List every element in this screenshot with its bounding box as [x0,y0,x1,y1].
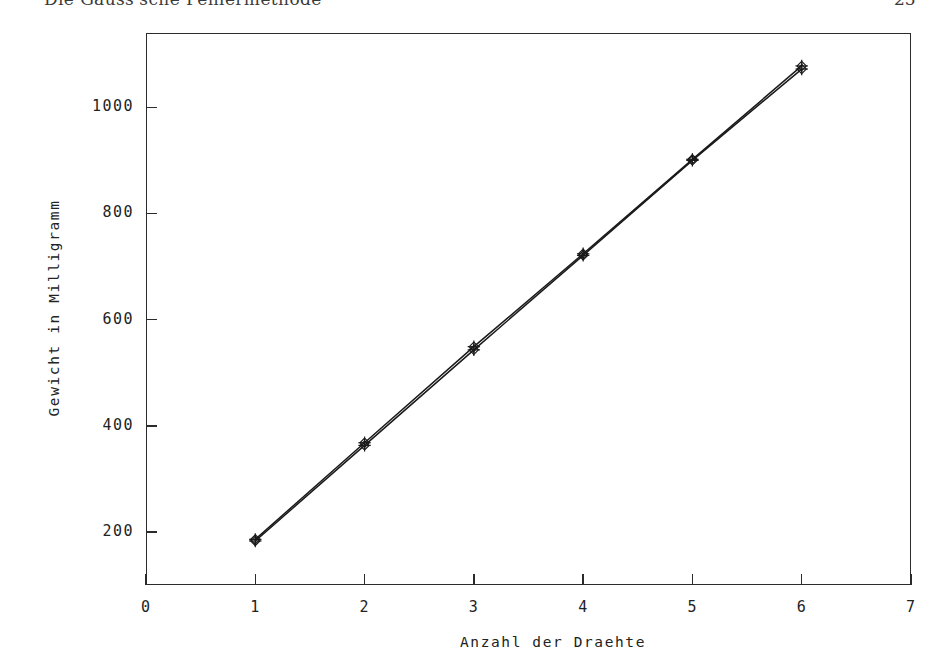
x-axis-tick [255,574,257,585]
x-axis-tick [910,574,912,585]
y-axis-tick-label: 600 [60,310,134,328]
y-axis-tick [146,319,157,321]
x-axis-tick-label: 2 [345,598,385,616]
x-axis-title: Anzahl der Draehte [0,634,938,650]
x-axis-tick-label: 0 [126,598,166,616]
x-axis-tick-label: 1 [235,598,275,616]
y-axis-tick-label: 400 [60,416,134,434]
x-axis-tick-label: 5 [672,598,712,616]
x-axis-tick-label: 4 [563,598,603,616]
x-axis-tick [801,574,803,585]
y-axis-tick [146,425,157,427]
y-axis-title: Gewicht in Milligramm [46,158,62,458]
x-axis-tick [473,574,475,585]
x-axis-tick [692,574,694,585]
x-axis-tick [582,574,584,585]
y-axis-tick [146,531,157,533]
y-axis-title-text: Gewicht in Milligramm [46,200,62,417]
x-axis-tick-label: 6 [782,598,822,616]
x-axis-tick [145,574,147,585]
y-axis-tick-label: 200 [60,522,134,540]
y-axis-tick [146,107,157,109]
x-axis-title-text: Anzahl der Draehte [460,634,646,650]
plot-data-layer [146,33,911,585]
x-axis-tick-label: 3 [454,598,494,616]
data-series-line [255,69,801,541]
x-axis-tick [364,574,366,585]
x-axis-tick-label: 7 [891,598,931,616]
y-axis-tick-label: 800 [60,203,134,221]
line-chart-figure: 2004006008001000 01234567 Anzahl der Dra… [0,0,938,658]
y-axis-tick-label: 1000 [60,97,134,115]
y-axis-tick [146,213,157,215]
